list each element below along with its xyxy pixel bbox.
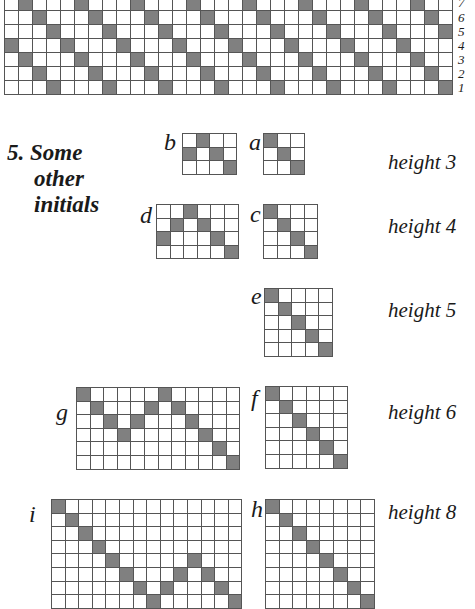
empty-cell (271, 0, 285, 11)
filled-cell (5, 39, 19, 53)
empty-cell (61, 81, 75, 95)
filled-cell (266, 500, 280, 514)
filled-cell (411, 53, 425, 67)
filled-cell (103, 81, 117, 95)
empty-cell (215, 514, 229, 528)
empty-cell (299, 67, 313, 81)
empty-cell (198, 246, 212, 260)
empty-cell (171, 246, 185, 260)
empty-cell (171, 232, 185, 246)
empty-cell (134, 568, 148, 582)
filled-cell (199, 429, 213, 443)
filled-cell (145, 67, 159, 81)
empty-cell (266, 514, 280, 528)
empty-cell (369, 53, 383, 67)
empty-cell (75, 11, 89, 25)
empty-cell (348, 541, 362, 555)
empty-cell (227, 442, 241, 456)
empty-cell (187, 11, 201, 25)
initial-label-f: f (251, 386, 258, 410)
empty-cell (104, 456, 118, 470)
empty-cell (172, 456, 186, 470)
filled-cell (120, 568, 134, 582)
empty-cell (361, 568, 375, 582)
empty-cell (313, 53, 327, 67)
empty-cell (172, 442, 186, 456)
empty-cell (19, 81, 33, 95)
empty-cell (313, 81, 327, 95)
empty-cell (52, 568, 66, 582)
empty-cell (215, 500, 229, 514)
empty-cell (117, 53, 131, 67)
empty-cell (79, 595, 93, 609)
empty-cell (361, 554, 375, 568)
filled-cell (285, 39, 299, 53)
filled-cell (271, 25, 285, 39)
empty-cell (229, 11, 243, 25)
empty-cell (265, 343, 279, 357)
empty-cell (5, 11, 19, 25)
empty-cell (19, 67, 33, 81)
initial-grid-f (265, 386, 348, 469)
empty-cell (355, 39, 369, 53)
empty-cell (319, 303, 333, 317)
empty-cell (397, 0, 411, 11)
empty-cell (411, 67, 425, 81)
filled-cell (369, 67, 383, 81)
empty-cell (186, 442, 200, 456)
filled-cell (215, 25, 229, 39)
filled-cell (264, 205, 278, 219)
empty-cell (103, 11, 117, 25)
empty-cell (131, 25, 145, 39)
empty-cell (305, 232, 319, 246)
empty-cell (307, 414, 321, 428)
filled-cell (334, 568, 348, 582)
empty-cell (291, 246, 305, 260)
empty-cell (33, 81, 47, 95)
empty-cell (211, 219, 225, 233)
empty-cell (210, 161, 224, 175)
empty-cell (66, 541, 80, 555)
initial-label-c: c (250, 202, 261, 226)
empty-cell (104, 388, 118, 402)
empty-cell (184, 246, 198, 260)
empty-cell (131, 11, 145, 25)
empty-cell (89, 39, 103, 53)
filled-cell (93, 541, 107, 555)
empty-cell (89, 81, 103, 95)
empty-cell (201, 39, 215, 53)
filled-cell (211, 232, 225, 246)
empty-cell (383, 53, 397, 67)
empty-cell (327, 0, 341, 11)
empty-cell (77, 456, 91, 470)
empty-cell (307, 500, 321, 514)
empty-cell (120, 595, 134, 609)
empty-cell (355, 25, 369, 39)
empty-cell (334, 541, 348, 555)
empty-cell (172, 415, 186, 429)
empty-cell (341, 11, 355, 25)
empty-cell (291, 148, 305, 162)
empty-cell (341, 25, 355, 39)
empty-cell (320, 401, 334, 415)
empty-cell (174, 500, 188, 514)
empty-cell (117, 25, 131, 39)
empty-cell (199, 456, 213, 470)
filled-cell (161, 582, 175, 596)
filled-cell (187, 0, 201, 11)
empty-cell (293, 514, 307, 528)
empty-cell (173, 53, 187, 67)
empty-cell (383, 67, 397, 81)
empty-cell (61, 0, 75, 11)
filled-cell (265, 289, 279, 303)
empty-cell (279, 330, 293, 344)
empty-cell (61, 53, 75, 67)
empty-cell (285, 53, 299, 67)
empty-cell (280, 527, 294, 541)
empty-cell (202, 554, 216, 568)
filled-cell (355, 53, 369, 67)
filled-cell (19, 0, 33, 11)
empty-cell (264, 232, 278, 246)
empty-cell (266, 401, 280, 415)
empty-cell (266, 527, 280, 541)
